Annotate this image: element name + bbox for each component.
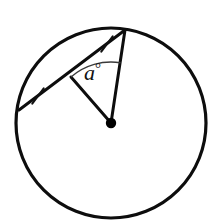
geometry-canvas: a° (0, 0, 220, 222)
radius-to-chord-endpoint-line (111, 30, 125, 123)
tick-mark-upper-icon (101, 36, 112, 51)
circle-geometry-diagram: a° (0, 0, 220, 222)
center-dot-icon (106, 118, 116, 128)
tick-mark-lower-icon (32, 88, 43, 103)
angle-variable: a (84, 60, 95, 85)
degree-symbol-icon: ° (95, 60, 101, 76)
angle-label: a° (84, 60, 101, 85)
